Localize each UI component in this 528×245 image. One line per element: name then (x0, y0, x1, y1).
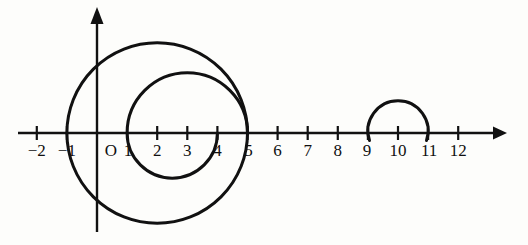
origin-label: O (105, 142, 117, 159)
tick-label-9: 9 (363, 142, 372, 159)
x-axis-arrow-icon (493, 127, 507, 140)
tick-label-12: 12 (450, 142, 467, 159)
y-axis-arrow-icon (91, 7, 104, 24)
tick-label-minus1: −1 (58, 142, 76, 159)
tick-label-4: 4 (213, 142, 222, 159)
inner-lower-semicircle-arc (127, 133, 217, 178)
tick-label-3: 3 (183, 142, 192, 159)
tick-label-10: 10 (390, 142, 407, 159)
figure-canvas (0, 0, 528, 245)
tick-label-7: 7 (303, 142, 312, 159)
tick-label-1: 1 (124, 142, 133, 159)
number-line-figure: −2 −1 O 1 2 3 4 5 6 7 8 9 10 11 12 (0, 0, 528, 245)
tick-label-8: 8 (334, 142, 343, 159)
tick-label-2: 2 (153, 142, 162, 159)
outer-upper-semicircle-arc (67, 43, 248, 133)
tick-label-5: 5 (244, 142, 253, 159)
tick-label-minus2: −2 (28, 142, 46, 159)
tick-label-11: 11 (421, 142, 437, 159)
inner-upper-semicircle-arc (127, 73, 247, 133)
tick-label-6: 6 (273, 142, 282, 159)
